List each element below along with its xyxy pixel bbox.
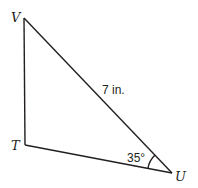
- vertex-label-t: T: [11, 138, 21, 153]
- vertex-label-u: U: [175, 169, 187, 184]
- triangle-diagram: V T U 7 in. 35°: [0, 0, 198, 188]
- angle-label-u: 35°: [127, 151, 145, 165]
- vertex-label-v: V: [11, 10, 22, 25]
- edge-vt: [24, 18, 25, 145]
- angle-arc-u: [148, 155, 155, 168]
- hypotenuse-length-label: 7 in.: [102, 83, 125, 97]
